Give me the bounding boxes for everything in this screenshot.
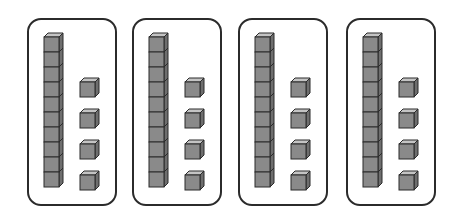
ten-rod-icon	[362, 32, 383, 188]
unit-cube-icon	[184, 139, 205, 160]
unit-cube-icon	[184, 108, 205, 129]
group-panel-1	[27, 18, 117, 206]
unit-cube-icon	[398, 108, 419, 129]
unit-cube-icon	[79, 108, 100, 129]
unit-cube-icon	[79, 170, 100, 191]
unit-cube	[290, 77, 311, 102]
ten-rod	[254, 32, 275, 192]
ten-rod-icon	[43, 32, 64, 188]
unit-cube-icon	[290, 139, 311, 160]
unit-cube	[290, 108, 311, 133]
unit-cube-icon	[398, 139, 419, 160]
unit-cube	[79, 108, 100, 133]
ten-rod-icon	[148, 32, 169, 188]
unit-cube-icon	[398, 170, 419, 191]
group-panel-3	[238, 18, 328, 206]
unit-cube	[398, 139, 419, 164]
unit-cube	[184, 77, 205, 102]
unit-cube	[79, 77, 100, 102]
unit-cube	[398, 108, 419, 133]
unit-cube-icon	[398, 77, 419, 98]
unit-cube	[79, 139, 100, 164]
unit-cube-icon	[290, 77, 311, 98]
ten-rod-icon	[254, 32, 275, 188]
unit-cube-icon	[79, 77, 100, 98]
unit-cube	[184, 170, 205, 195]
ten-rod	[43, 32, 64, 192]
unit-cube	[290, 170, 311, 195]
unit-cube-icon	[184, 77, 205, 98]
unit-cube-icon	[79, 139, 100, 160]
group-panel-2	[132, 18, 222, 206]
unit-cube	[398, 170, 419, 195]
unit-cube-icon	[184, 170, 205, 191]
unit-cube-icon	[290, 108, 311, 129]
unit-cube	[184, 139, 205, 164]
unit-cube	[290, 139, 311, 164]
group-panel-4	[346, 18, 436, 206]
unit-cube-icon	[290, 170, 311, 191]
unit-cube	[398, 77, 419, 102]
unit-cube	[79, 170, 100, 195]
unit-cube	[184, 108, 205, 133]
ten-rod	[148, 32, 169, 192]
ten-rod	[362, 32, 383, 192]
